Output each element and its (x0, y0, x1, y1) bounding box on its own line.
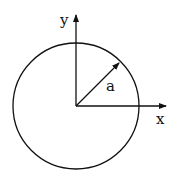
diagram-canvas: y x a (0, 0, 174, 178)
radius-label: a (106, 77, 115, 95)
x-axis-label: x (156, 110, 165, 128)
y-axis-label: y (59, 11, 69, 29)
